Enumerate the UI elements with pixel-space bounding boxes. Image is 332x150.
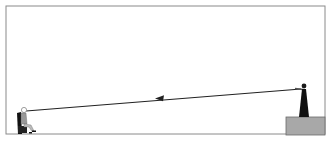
standing-observer-figure (295, 84, 309, 117)
sight-line (26, 89, 301, 111)
seated-observer-figure (17, 107, 36, 134)
frame-border (6, 6, 325, 134)
diagram-scene (0, 0, 332, 150)
platform-box (286, 117, 325, 135)
